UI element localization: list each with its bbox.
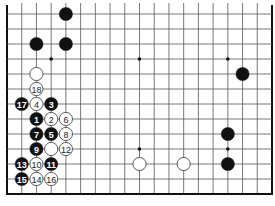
move-number-label: 13 <box>17 160 27 170</box>
white-stone <box>177 157 190 170</box>
move-number-label: 14 <box>31 175 41 185</box>
white-stone <box>133 157 146 170</box>
black-stone-icon <box>221 157 234 170</box>
white-stone: 14 <box>30 172 43 185</box>
black-stone-icon <box>30 37 43 50</box>
black-stone-icon <box>236 67 249 80</box>
black-stone <box>221 157 234 170</box>
white-stone: 16 <box>45 172 58 185</box>
black-stone: 9 <box>30 142 43 155</box>
move-number-label: 5 <box>49 130 54 140</box>
white-stone-icon <box>30 67 43 80</box>
go-board: 181743126758912131011151416 <box>0 0 275 206</box>
star-point-icon <box>138 147 142 151</box>
white-stone: 6 <box>59 112 72 125</box>
star-point-icon <box>226 147 230 151</box>
black-stone <box>221 127 234 140</box>
move-number-label: 12 <box>61 145 71 155</box>
white-stone <box>45 142 58 155</box>
move-number-label: 3 <box>49 100 54 110</box>
white-stone: 8 <box>59 127 72 140</box>
black-stone: 13 <box>15 157 28 170</box>
star-point-icon <box>138 57 142 61</box>
black-stone: 5 <box>45 127 58 140</box>
black-stone: 7 <box>30 127 43 140</box>
move-number-label: 16 <box>46 175 56 185</box>
black-stone: 1 <box>30 112 43 125</box>
stones-layer: 181743126758912131011151416 <box>15 7 249 185</box>
move-number-label: 8 <box>63 130 68 140</box>
move-number-label: 18 <box>31 85 41 95</box>
black-stone <box>59 37 72 50</box>
black-stone <box>236 67 249 80</box>
black-stone-icon <box>221 127 234 140</box>
black-stone <box>59 7 72 20</box>
move-number-label: 1 <box>34 115 39 125</box>
move-number-label: 2 <box>49 115 54 125</box>
star-point-icon <box>226 57 230 61</box>
move-number-label: 11 <box>46 160 56 170</box>
white-stone: 4 <box>30 97 43 110</box>
white-stone-icon <box>45 142 58 155</box>
white-stone: 2 <box>45 112 58 125</box>
move-number-label: 6 <box>63 115 68 125</box>
white-stone-icon <box>133 157 146 170</box>
white-stone-icon <box>177 157 190 170</box>
move-number-label: 10 <box>31 160 41 170</box>
black-stone-icon <box>59 7 72 20</box>
white-stone: 10 <box>30 157 43 170</box>
star-point-icon <box>49 57 53 61</box>
black-stone: 11 <box>45 157 58 170</box>
black-stone-icon <box>59 37 72 50</box>
black-stone: 17 <box>15 97 28 110</box>
move-number-label: 9 <box>34 145 39 155</box>
move-number-label: 15 <box>17 175 27 185</box>
move-number-label: 7 <box>34 130 39 140</box>
white-stone: 12 <box>59 142 72 155</box>
black-stone: 3 <box>45 97 58 110</box>
black-stone: 15 <box>15 172 28 185</box>
move-number-label: 4 <box>34 100 39 110</box>
black-stone <box>30 37 43 50</box>
white-stone <box>30 67 43 80</box>
white-stone: 18 <box>30 82 43 95</box>
move-number-label: 17 <box>17 100 27 110</box>
